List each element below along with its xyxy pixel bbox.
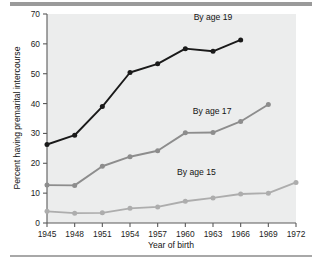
data-point	[128, 206, 133, 211]
x-tick-label: 1954	[121, 229, 140, 239]
data-point	[238, 37, 243, 42]
data-point	[211, 49, 216, 54]
y-tick-label: 70	[31, 9, 41, 19]
y-tick-label: 30	[31, 128, 41, 138]
data-point	[183, 130, 188, 135]
figure-container: 010203040506070 194519481951195419571960…	[0, 0, 322, 268]
data-point	[238, 119, 243, 124]
data-point	[100, 104, 105, 109]
data-point	[72, 211, 77, 216]
data-point	[45, 142, 50, 147]
data-point	[266, 191, 271, 196]
data-point	[211, 130, 216, 135]
chart-plot-area: 010203040506070 194519481951195419571960…	[0, 8, 322, 252]
data-point	[266, 102, 271, 107]
data-point	[155, 61, 160, 66]
x-tick-label: 1960	[176, 229, 195, 239]
data-point	[183, 46, 188, 51]
data-point	[238, 192, 243, 197]
data-point	[183, 199, 188, 204]
y-tick-label: 10	[31, 188, 41, 198]
series-label-by-age-19: By age 19	[194, 12, 233, 22]
x-axis-title: Year of birth	[148, 240, 194, 250]
data-point	[155, 204, 160, 209]
x-axis-ticks: 1945194819511954195719601963196619691972	[38, 223, 306, 239]
x-tick-label: 1945	[38, 229, 57, 239]
data-point	[45, 209, 50, 214]
data-point	[294, 180, 299, 185]
data-point	[72, 133, 77, 138]
series-label-by-age-15: By age 15	[177, 167, 216, 177]
x-tick-label: 1948	[65, 229, 84, 239]
data-point	[128, 70, 133, 75]
x-tick-label: 1957	[148, 229, 167, 239]
y-tick-label: 0	[35, 218, 40, 228]
x-tick-label: 1963	[204, 229, 223, 239]
x-tick-label: 1969	[259, 229, 278, 239]
plot-background	[47, 14, 296, 223]
data-point	[211, 195, 216, 200]
y-tick-label: 40	[31, 99, 41, 109]
data-point	[100, 164, 105, 169]
y-tick-label: 50	[31, 69, 41, 79]
y-axis-title: Percent having premarital intercourse	[12, 46, 22, 189]
bottom-divider	[10, 255, 312, 257]
line-chart-svg: 010203040506070 194519481951195419571960…	[0, 8, 322, 252]
x-tick-label: 1966	[231, 229, 250, 239]
data-point	[45, 183, 50, 188]
x-tick-label: 1972	[287, 229, 306, 239]
data-point	[72, 183, 77, 188]
series-label-by-age-17: By age 17	[193, 106, 232, 116]
y-tick-label: 60	[31, 39, 41, 49]
y-axis-ticks: 010203040506070	[31, 9, 47, 228]
data-point	[155, 148, 160, 153]
data-point	[100, 210, 105, 215]
data-point	[128, 154, 133, 159]
x-tick-label: 1951	[93, 229, 112, 239]
y-tick-label: 20	[31, 158, 41, 168]
top-divider	[10, 2, 312, 6]
